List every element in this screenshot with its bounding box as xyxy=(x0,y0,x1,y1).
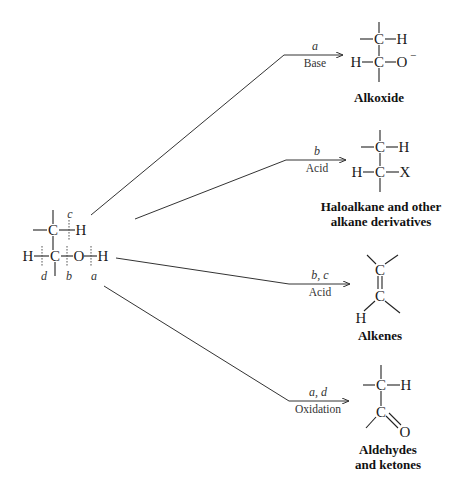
atom-o: O xyxy=(400,424,411,440)
label-d: d xyxy=(41,269,48,283)
product-alkoxide: C H H C O − Alkoxide xyxy=(351,22,417,105)
atom-o: O xyxy=(74,248,85,264)
atom-oh-h: H xyxy=(98,248,109,264)
atom-c1: C xyxy=(376,377,386,393)
product-name-carbonyl-line2: and ketones xyxy=(355,457,421,472)
atom-c2: C xyxy=(374,54,384,70)
label-c: c xyxy=(67,207,73,221)
product-name-alkoxide: Alkoxide xyxy=(354,90,404,105)
product-haloalkane: C H H C X Haloalkane and other alkane de… xyxy=(321,130,442,229)
atom-top-h: H xyxy=(76,222,87,238)
atom-h: H xyxy=(356,310,367,326)
alcohol-reactions-diagram: C H H C O H c d b a a Base b Acid b, c A… xyxy=(0,0,460,488)
atom-h2: H xyxy=(352,164,363,180)
product-name-alkene: Alkenes xyxy=(358,328,402,343)
arrow-to-alkoxide xyxy=(91,55,343,215)
atom-c1: C xyxy=(374,31,384,47)
atom-top-c: C xyxy=(48,222,58,238)
reagent-haloalkane: Acid xyxy=(306,162,329,174)
atom-c1: C xyxy=(375,262,385,278)
atom-c2: C xyxy=(375,164,385,180)
arrow-to-carbonyl xyxy=(104,286,349,401)
atom-x: X xyxy=(400,164,411,180)
charge-negative: − xyxy=(410,49,416,61)
reagent-alkene: Acid xyxy=(309,286,332,298)
label-b: b xyxy=(66,269,72,283)
reagent-carbonyl: Oxidation xyxy=(295,403,341,415)
label-a: a xyxy=(91,269,97,283)
atom-bottom-c: C xyxy=(50,248,60,264)
bonds-broken-alkoxide: a xyxy=(312,39,318,53)
atom-h1: H xyxy=(397,31,408,47)
atom-c2: C xyxy=(375,288,385,304)
atom-c2: C xyxy=(376,404,386,420)
reagent-alkoxide: Base xyxy=(304,57,326,69)
atom-h1: H xyxy=(401,377,412,393)
bonds-broken-carbonyl: a, d xyxy=(309,385,328,399)
bonds-broken-haloalkane: b xyxy=(314,144,320,158)
product-alkene: C C H Alkenes xyxy=(356,255,402,343)
product-name-haloalkane-line2: alkane derivatives xyxy=(331,214,432,229)
atom-bottom-h: H xyxy=(23,248,34,264)
atom-o: O xyxy=(397,54,408,70)
bonds-broken-alkene: b, c xyxy=(311,268,329,282)
atom-h1: H xyxy=(399,139,410,155)
reactant-alcohol: C H H C O H c d b a xyxy=(23,207,109,283)
product-name-carbonyl-line1: Aldehydes xyxy=(359,442,417,457)
atom-c1: C xyxy=(375,139,385,155)
product-name-haloalkane-line1: Haloalkane and other xyxy=(321,199,442,214)
product-carbonyl: C H C O Aldehydes and ketones xyxy=(355,365,421,472)
atom-h2: H xyxy=(351,54,362,70)
